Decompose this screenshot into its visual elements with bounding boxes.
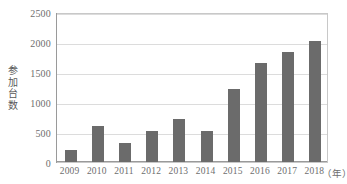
- bar-chart: 参加台数 05001000150020002500 20092010201120…: [0, 0, 347, 184]
- x-axis-tick-label: 2012: [141, 166, 161, 176]
- bar: [146, 131, 158, 162]
- x-axis-tick-label: 2013: [168, 166, 188, 176]
- bar: [92, 126, 104, 162]
- y-axis-tick-label: 2500: [30, 8, 51, 19]
- plot-area: [56, 13, 328, 163]
- y-axis-title-char: 数: [6, 100, 20, 112]
- x-axis-tick-label: 2016: [250, 166, 270, 176]
- bar-slot: [220, 14, 247, 162]
- bar: [173, 119, 185, 162]
- bar-slot: [166, 14, 193, 162]
- bar-slot: [111, 14, 138, 162]
- bar-slot: [247, 14, 274, 162]
- bar: [282, 52, 294, 162]
- y-axis-tick-label: 0: [46, 158, 51, 169]
- x-axis-tick-label: 2015: [223, 166, 243, 176]
- y-axis-title-char: 加: [6, 77, 20, 89]
- bar-slot: [275, 14, 302, 162]
- bar: [228, 89, 240, 162]
- y-axis-title-char: 台: [6, 88, 20, 100]
- y-axis-tick-label: 2000: [30, 38, 51, 49]
- bar-series: [57, 14, 327, 162]
- y-axis-tick-labels: 05001000150020002500: [20, 0, 54, 184]
- x-axis-tick-label: 2009: [60, 166, 80, 176]
- bar: [255, 63, 267, 162]
- y-axis-tick-label: 1000: [30, 98, 51, 109]
- x-axis-tick-label: 2017: [277, 166, 297, 176]
- x-axis-unit-label: （年）: [322, 166, 347, 180]
- x-axis-tick-label: 2011: [114, 166, 133, 176]
- bar: [201, 131, 213, 162]
- bar: [65, 150, 77, 162]
- y-axis-title: 参加台数: [6, 65, 20, 111]
- bar-slot: [139, 14, 166, 162]
- x-axis-tick-label: 2014: [196, 166, 216, 176]
- bar: [119, 143, 131, 162]
- y-axis-tick-label: 500: [35, 128, 51, 139]
- x-axis-tick-labels: 2009201020112012201320142015201620172018: [56, 166, 328, 182]
- y-axis-title-char: 参: [6, 65, 20, 77]
- bar: [309, 41, 321, 162]
- y-axis-tick-label: 1500: [30, 68, 51, 79]
- bar-slot: [302, 14, 329, 162]
- bar-slot: [57, 14, 84, 162]
- x-axis-tick-label: 2010: [87, 166, 107, 176]
- bar-slot: [84, 14, 111, 162]
- bar-slot: [193, 14, 220, 162]
